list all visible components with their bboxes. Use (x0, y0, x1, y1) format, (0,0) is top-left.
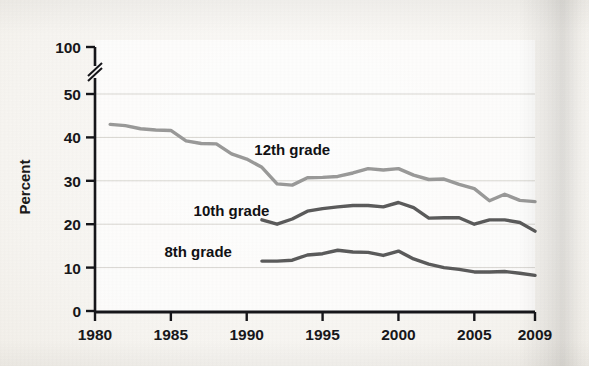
y-tick-label-100: 100 (55, 39, 81, 56)
y-tick-label-0: 0 (72, 303, 81, 320)
x-tick-label-2009: 2009 (518, 326, 553, 343)
series-label-12th-grade: 12th grade (254, 141, 330, 158)
x-tick-label-2005: 2005 (457, 326, 492, 343)
x-tick-label-2000: 2000 (381, 326, 415, 343)
y-tick-label-30: 30 (64, 173, 81, 190)
y-tick-label-10: 10 (64, 260, 81, 277)
x-tick-label-1980: 1980 (78, 326, 112, 343)
y-tick-label-40: 40 (64, 129, 81, 146)
x-tick-label-1995: 1995 (305, 326, 340, 343)
y-tick-label-50: 50 (64, 86, 81, 103)
line-chart: 0102030405010019801985199019952000200520… (0, 0, 589, 366)
series-label-10th-grade: 10th grade (194, 202, 270, 219)
x-tick-label-1990: 1990 (229, 326, 263, 343)
x-tick-label-1985: 1985 (154, 326, 189, 343)
y-tick-label-20: 20 (64, 216, 81, 233)
y-axis-title: Percent (16, 159, 33, 214)
chart-svg: 0102030405010019801985199019952000200520… (0, 0, 589, 366)
series-label-8th-grade: 8th grade (164, 243, 232, 260)
